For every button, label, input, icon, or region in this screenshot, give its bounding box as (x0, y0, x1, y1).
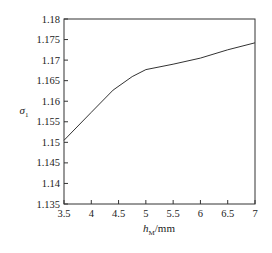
x-axis-label: hM/mm (143, 222, 175, 237)
y-tick-label: 1.165 (36, 75, 60, 86)
x-tick-label: 5.5 (167, 208, 180, 219)
y-tick-label: 1.175 (36, 34, 60, 45)
x-tick-label: 4.5 (112, 208, 125, 219)
y-tick-label: 1.145 (36, 157, 60, 168)
y-tick-label: 1.15 (42, 137, 60, 148)
y-axis-label: σ1 (20, 104, 29, 119)
y-tick-label: 1.155 (36, 116, 60, 127)
y-tick-label: 1.18 (42, 14, 60, 25)
y-tick-label: 1.17 (42, 55, 60, 66)
y-axis-ticks: 1.1351.141.1451.151.1551.161.1651.171.17… (36, 14, 68, 210)
x-tick-label: 5 (143, 208, 148, 219)
x-tick-label: 6 (198, 208, 203, 219)
y-tick-label: 1.16 (42, 96, 60, 107)
line-chart: 1.1351.141.1451.151.1551.161.1651.171.17… (0, 0, 272, 253)
x-tick-label: 7 (252, 208, 257, 219)
x-tick-label: 3.5 (57, 208, 70, 219)
x-tick-label: 6.5 (221, 208, 234, 219)
y-tick-label: 1.14 (42, 178, 61, 189)
x-tick-label: 4 (89, 208, 95, 219)
